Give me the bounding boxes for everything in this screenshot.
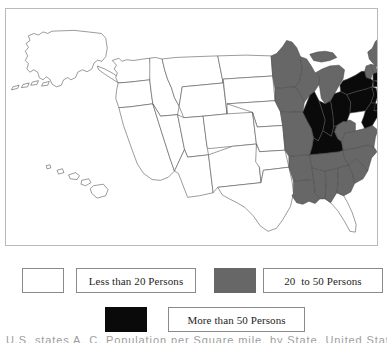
legend-row-less-than-20: Less than 20 Persons (0, 268, 200, 293)
state-WY (179, 83, 227, 118)
state-AR (289, 155, 314, 181)
figure-caption: U.S. states A. C. Population per Square … (6, 335, 387, 343)
hawaii-inset (46, 165, 108, 198)
legend-label-more-than-50: More than 50 Persons (168, 307, 305, 332)
legend-swatch-less-than-20 (22, 268, 64, 293)
legend-row-20-to-50: 20 to 50 Persons (200, 268, 387, 293)
legend-swatch-more-than-50 (105, 307, 147, 332)
map-legend: Less than 20 Persons 20 to 50 Persons Mo… (0, 250, 387, 343)
state-AK-aleutians (11, 81, 49, 90)
legend-swatch-20-to-50 (214, 268, 256, 293)
alaska-inset (11, 30, 122, 90)
state-AK (25, 30, 107, 86)
legend-label-less-than-20: Less than 20 Persons (76, 268, 196, 293)
state-WA (112, 58, 151, 83)
state-ME (368, 38, 377, 68)
state-MN (271, 40, 302, 88)
state-CO (203, 112, 256, 148)
legend-row-more-than-50: More than 50 Persons (90, 307, 320, 332)
state-CT (373, 81, 377, 87)
population-density-figure: Less than 20 Persons 20 to 50 Persons Mo… (0, 0, 387, 343)
legend-label-20-to-50: 20 to 50 Persons (263, 268, 383, 293)
us-choropleth-map (6, 9, 377, 245)
state-HI (46, 165, 108, 198)
map-panel (5, 8, 378, 246)
state-OR (116, 80, 153, 108)
